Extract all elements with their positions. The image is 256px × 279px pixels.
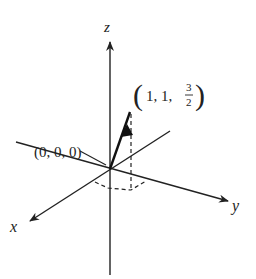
tip-frac-den: 2: [186, 96, 192, 108]
position-vector: [110, 112, 133, 169]
vector-diagram: z y x (0, 0, 0) ( 1, 1, 3 2 ): [0, 0, 256, 279]
tip-close-paren: ): [195, 78, 205, 112]
z-axis-label: z: [103, 19, 110, 35]
origin-label: (0, 0, 0): [34, 144, 82, 161]
tip-coords: 1, 1,: [146, 88, 172, 104]
y-axis-label: y: [230, 197, 240, 215]
tip-label: ( 1, 1, 3 2 ): [133, 78, 205, 112]
x-axis-label: x: [9, 218, 17, 235]
tip-open-paren: (: [133, 78, 143, 112]
tip-frac-num: 3: [186, 81, 192, 93]
